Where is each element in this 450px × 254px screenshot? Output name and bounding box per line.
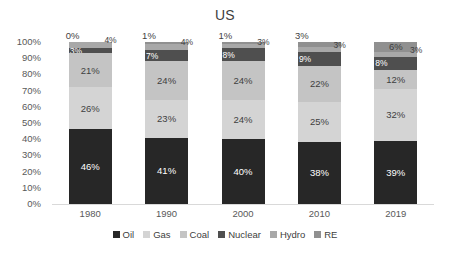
bar-group[interactable]: 6%3%8%12%32%39% (374, 42, 417, 204)
segment-value-label: 26% (81, 104, 100, 114)
legend-swatch-icon (143, 231, 150, 238)
legend-label: RE (324, 230, 337, 240)
bar-segment[interactable]: 21% (69, 53, 112, 87)
bar-segment[interactable]: 26% (69, 87, 112, 129)
bar-group[interactable]: 1%4%7%24%23%41% (145, 42, 188, 204)
x-axis-tick: 2019 (366, 208, 426, 219)
chart-legend: OilGasCoalNuclearHydroRE (0, 230, 450, 240)
y-axis-tick: 10% (22, 183, 41, 193)
legend-item[interactable]: Oil (113, 230, 135, 240)
segment-value-label: 41% (157, 166, 176, 176)
segment-value-label: 40% (233, 167, 252, 177)
legend-label: Coal (190, 230, 210, 240)
bar-segment[interactable]: 22% (298, 66, 341, 102)
y-axis-tick: 0% (27, 199, 41, 209)
segment-value-label: 24% (233, 115, 252, 125)
bar-segment[interactable]: 8% (222, 48, 265, 61)
segment-value-label: 24% (157, 76, 176, 86)
legend-swatch-icon (113, 231, 120, 238)
bar-segment[interactable]: 40% (222, 139, 265, 204)
legend-item[interactable]: Gas (143, 230, 170, 240)
segment-value-label: 1% (142, 31, 156, 41)
segment-value-label: 12% (386, 75, 405, 85)
segment-value-label: 3% (295, 31, 309, 41)
segment-value-label: 25% (310, 117, 329, 127)
segment-value-label: 7% (146, 51, 158, 60)
y-axis-tick: 20% (22, 167, 41, 177)
legend-item[interactable]: Hydro (270, 230, 305, 240)
bar-segment[interactable]: 24% (222, 100, 265, 139)
bar-segment[interactable]: 25% (298, 102, 341, 143)
y-axis-tick: 40% (22, 134, 41, 144)
legend-swatch-icon (218, 231, 225, 238)
chart-container: US 100%90%80%70%60%50%40%30%20%10%0% 0%4… (0, 0, 450, 254)
x-axis-tick: 2010 (289, 208, 349, 219)
segment-value-label: 9% (299, 55, 311, 64)
bar-segment[interactable]: 24% (145, 61, 188, 100)
bar-segment[interactable]: 7% (145, 50, 188, 61)
y-axis: 100%90%80%70%60%50%40%30%20%10%0% (0, 36, 46, 210)
segment-value-label: 0% (66, 31, 80, 41)
y-axis-tick: 100% (17, 37, 41, 47)
bar-segment[interactable]: 39% (374, 141, 417, 204)
x-axis-tick: 1990 (137, 208, 197, 219)
segment-value-label: 32% (386, 110, 405, 120)
chart-title: US (0, 7, 450, 23)
y-axis-tick: 50% (22, 118, 41, 128)
segment-value-label: 22% (310, 79, 329, 89)
x-axis-tick: 2000 (213, 208, 273, 219)
bar-segment[interactable]: 41% (145, 138, 188, 204)
legend-label: Nuclear (228, 230, 261, 240)
legend-swatch-icon (314, 231, 321, 238)
bar-segment[interactable]: 6% (374, 42, 417, 52)
x-axis: 19801990200020102019 (52, 206, 434, 224)
legend-swatch-icon (270, 231, 277, 238)
segment-value-label: 38% (310, 168, 329, 178)
legend-item[interactable]: Nuclear (218, 230, 261, 240)
bar-segment[interactable]: 32% (374, 89, 417, 141)
segment-value-label: 46% (81, 162, 100, 172)
segment-value-label: 24% (233, 76, 252, 86)
legend-item[interactable]: Coal (180, 230, 210, 240)
segment-value-label: 21% (81, 66, 100, 76)
legend-item[interactable]: RE (314, 230, 337, 240)
bar-segment[interactable]: 38% (298, 142, 341, 204)
bar-segment[interactable]: 12% (374, 70, 417, 89)
bar-group[interactable]: 1%3%8%24%24%40% (222, 42, 265, 204)
y-axis-tick: 90% (22, 53, 41, 63)
bar-group[interactable]: 3%3%9%22%25%38% (298, 42, 341, 204)
legend-swatch-icon (180, 231, 187, 238)
bar-segment[interactable]: 23% (145, 100, 188, 137)
y-axis-tick: 80% (22, 70, 41, 80)
segment-value-label: 23% (157, 114, 176, 124)
plot-area: 0%4%3%21%26%46%1%4%7%24%23%41%1%3%8%24%2… (52, 42, 434, 204)
y-axis-tick: 30% (22, 151, 41, 161)
bar-segment[interactable]: 46% (69, 129, 112, 204)
y-axis-tick: 70% (22, 86, 41, 96)
segment-value-label: 8% (375, 59, 387, 68)
x-axis-tick: 1980 (60, 208, 120, 219)
legend-label: Hydro (280, 230, 305, 240)
segment-value-label: 39% (386, 168, 405, 178)
bar-segment[interactable]: 9% (298, 52, 341, 67)
x-axis-line (52, 204, 434, 205)
segment-value-label: 1% (219, 31, 233, 41)
legend-label: Gas (153, 230, 170, 240)
legend-label: Oil (123, 230, 135, 240)
segment-value-label: 4% (104, 36, 116, 45)
bar-group[interactable]: 0%4%3%21%26%46% (69, 42, 112, 204)
bar-segment[interactable]: 24% (222, 61, 265, 100)
bar-segment[interactable]: 8% (374, 57, 417, 70)
segment-value-label: 6% (389, 42, 403, 52)
segment-value-label: 8% (223, 51, 235, 60)
y-axis-tick: 60% (22, 102, 41, 112)
